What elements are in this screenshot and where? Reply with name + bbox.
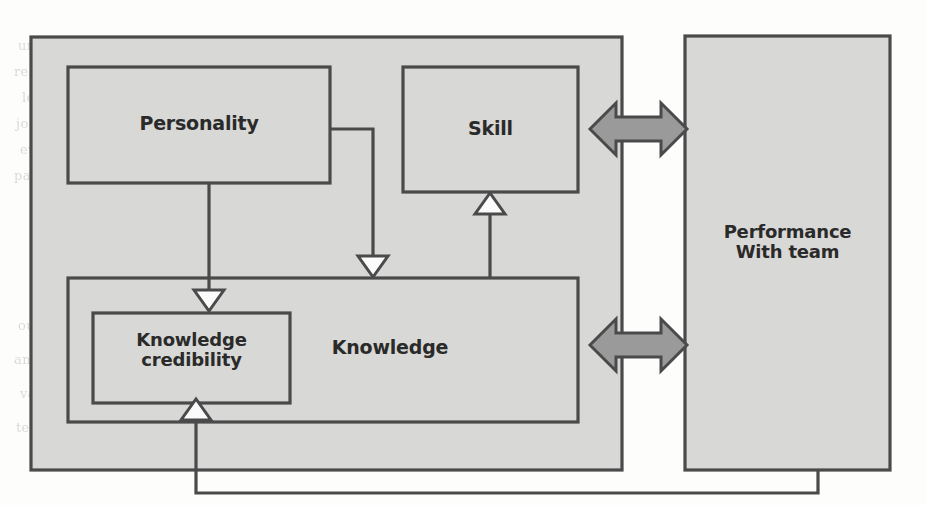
- figure-canvas: understand why we can then know the orde…: [0, 0, 926, 505]
- diagram-svg: [0, 0, 926, 505]
- node-skill[interactable]: [403, 67, 578, 192]
- node-performance-with-team[interactable]: [685, 36, 890, 470]
- node-personality[interactable]: [68, 67, 330, 183]
- node-knowledge-credibility[interactable]: [93, 313, 290, 403]
